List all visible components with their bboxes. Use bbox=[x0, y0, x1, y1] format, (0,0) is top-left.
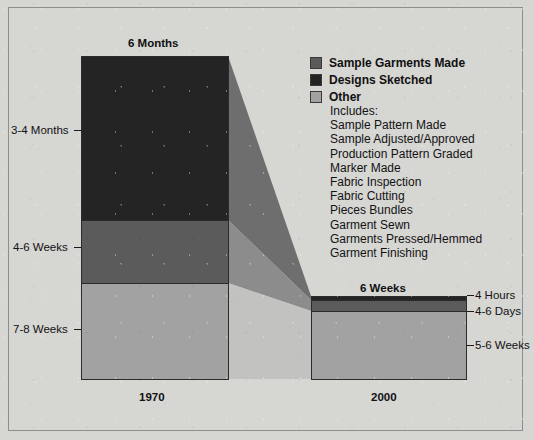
legend-item-other[interactable]: Other bbox=[310, 89, 465, 105]
right-axis-label-bottom: 5-6 Weeks bbox=[475, 340, 530, 352]
includes-item-3: Marker Made bbox=[330, 161, 482, 175]
left-axis-label-bottom: 7-8 Weeks bbox=[13, 324, 68, 336]
legend-swatch-other bbox=[310, 91, 322, 103]
legend-swatch-sample-garments-made bbox=[310, 57, 322, 69]
legend-item-designs-sketched[interactable]: Designs Sketched bbox=[310, 72, 465, 88]
includes-item-5: Fabric Cutting bbox=[330, 189, 482, 203]
bar-1970-segment-designs-sketched bbox=[81, 56, 229, 221]
legend-swatch-designs-sketched bbox=[310, 74, 322, 86]
includes-item-7: Garment Sewn bbox=[330, 218, 482, 232]
includes-heading: Includes: bbox=[330, 104, 482, 118]
legend-item-sample-garments-made[interactable]: Sample Garments Made bbox=[310, 55, 465, 71]
chart-legend: Sample Garments Made Designs Sketched Ot… bbox=[310, 55, 465, 106]
includes-item-0: Sample Pattern Made bbox=[330, 118, 482, 132]
right-axis-label-top: 4 Hours bbox=[475, 290, 515, 302]
includes-item-8: Garments Pressed/Hemmed bbox=[330, 232, 482, 246]
right-axis-label-mid: 4-6 Days bbox=[475, 306, 521, 318]
includes-item-6: Pieces Bundles bbox=[330, 203, 482, 217]
includes-item-4: Fabric Inspection bbox=[330, 175, 482, 189]
left-tick-mid bbox=[74, 247, 81, 248]
bar-1970-segment-other bbox=[81, 283, 229, 380]
total-label-2000: 6 Weeks bbox=[360, 283, 406, 295]
legend-label-sample-garments-made: Sample Garments Made bbox=[329, 56, 465, 70]
total-label-1970: 6 Months bbox=[128, 38, 178, 50]
includes-item-1: Sample Adjusted/Approved bbox=[330, 132, 482, 146]
legend-label-other: Other bbox=[329, 90, 361, 104]
right-tick-top bbox=[467, 295, 474, 296]
left-tick-top bbox=[74, 130, 81, 131]
right-tick-mid bbox=[467, 311, 474, 312]
right-tick-bottom bbox=[467, 345, 474, 346]
bar-1970-segment-sample-garments-made bbox=[81, 220, 229, 284]
left-axis-label-mid: 4-6 Weeks bbox=[13, 242, 68, 254]
includes-item-2: Production Pattern Graded bbox=[330, 147, 482, 161]
chart-page: 3-4 Months 4-6 Weeks 7-8 Weeks 4 Hours 4… bbox=[0, 0, 534, 440]
includes-list: Includes: Sample Pattern Made Sample Adj… bbox=[330, 104, 482, 260]
bar-2000-segment-other bbox=[311, 311, 467, 380]
x-axis-label-2000: 2000 bbox=[371, 392, 397, 404]
legend-label-designs-sketched: Designs Sketched bbox=[329, 73, 432, 87]
x-axis-label-1970: 1970 bbox=[139, 392, 165, 404]
includes-item-9: Garment Finishing bbox=[330, 246, 482, 260]
left-axis-label-top: 3-4 Months bbox=[11, 125, 69, 137]
left-tick-bottom bbox=[74, 329, 81, 330]
